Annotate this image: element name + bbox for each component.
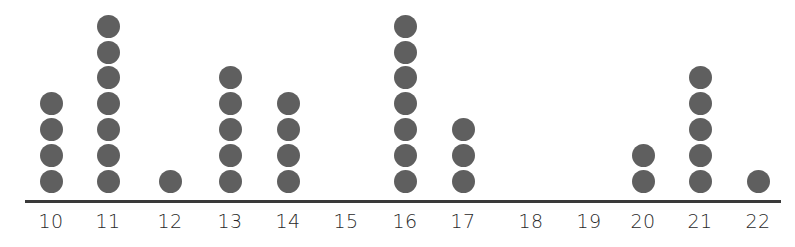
x-tick-label: 14: [268, 210, 308, 232]
data-dot: [632, 144, 655, 167]
data-dot: [452, 118, 475, 141]
x-tick-label: 15: [326, 210, 366, 232]
x-axis-line: [25, 200, 781, 203]
data-dot: [277, 118, 300, 141]
data-dot: [159, 170, 182, 193]
data-dot: [277, 92, 300, 115]
data-dot: [97, 41, 120, 64]
data-dot: [394, 41, 417, 64]
data-dot: [97, 118, 120, 141]
data-dot: [97, 92, 120, 115]
data-dot: [394, 170, 417, 193]
data-dot: [97, 66, 120, 89]
data-dot: [689, 118, 712, 141]
data-dot: [40, 92, 63, 115]
data-dot: [40, 118, 63, 141]
x-tick-label: 21: [680, 210, 720, 232]
data-dot: [747, 170, 770, 193]
x-tick-label: 20: [623, 210, 663, 232]
x-tick-label: 13: [210, 210, 250, 232]
x-tick-label: 17: [443, 210, 483, 232]
data-dot: [97, 15, 120, 38]
data-dot: [219, 92, 242, 115]
dot-plot: 10111213141516171819202122: [0, 0, 795, 247]
data-dot: [97, 144, 120, 167]
data-dot: [394, 92, 417, 115]
data-dot: [394, 118, 417, 141]
data-dot: [452, 170, 475, 193]
x-tick-label: 10: [31, 210, 71, 232]
data-dot: [40, 144, 63, 167]
data-dot: [219, 118, 242, 141]
data-dot: [632, 170, 655, 193]
x-tick-label: 19: [569, 210, 609, 232]
data-dot: [394, 15, 417, 38]
data-dot: [97, 170, 120, 193]
data-dot: [219, 170, 242, 193]
x-tick-label: 11: [88, 210, 128, 232]
data-dot: [394, 66, 417, 89]
data-dot: [219, 66, 242, 89]
data-dot: [277, 170, 300, 193]
data-dot: [277, 144, 300, 167]
x-tick-label: 16: [385, 210, 425, 232]
data-dot: [219, 144, 242, 167]
data-dot: [689, 144, 712, 167]
x-tick-label: 18: [511, 210, 551, 232]
data-dot: [394, 144, 417, 167]
data-dot: [452, 144, 475, 167]
data-dot: [689, 170, 712, 193]
data-dot: [689, 66, 712, 89]
x-tick-label: 12: [150, 210, 190, 232]
data-dot: [40, 170, 63, 193]
x-tick-label: 22: [738, 210, 778, 232]
data-dot: [689, 92, 712, 115]
